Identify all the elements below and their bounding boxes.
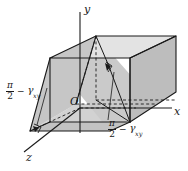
angle-label-right: π 2 − γxy (108, 119, 143, 139)
shear-strain-figure: y x z O π 2 − γxy π 2 − γxy (0, 0, 188, 171)
pi-numerator-left: π (6, 81, 14, 91)
angle-label-left: π 2 − γxy (6, 81, 41, 101)
origin-label: O (70, 96, 79, 107)
fraction-pi-over-two-left: π 2 (6, 81, 14, 101)
gamma-term-left: γxy (28, 85, 41, 97)
gamma-subscript-left: xy (33, 92, 40, 100)
two-denominator-left: 2 (6, 92, 14, 102)
y-axis-label: y (84, 4, 90, 15)
fraction-pi-over-two-right: π 2 (108, 119, 116, 139)
gamma-term-right: γxy (130, 123, 143, 135)
gamma-subscript-right: xy (135, 130, 142, 138)
z-axis-label: z (26, 152, 32, 163)
pi-numerator-right: π (108, 119, 116, 129)
two-denominator-right: 2 (108, 130, 116, 140)
minus-sign-left: − (16, 87, 26, 96)
x-axis-label: x (174, 106, 180, 117)
minus-sign-right: − (118, 125, 128, 134)
